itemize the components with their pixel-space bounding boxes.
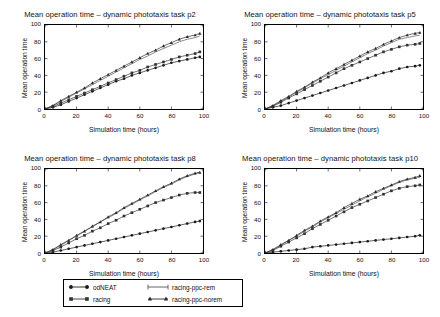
- chart-panel-p10: Mean operation time – dynamic phototaxis…: [220, 146, 440, 296]
- x-tick-label: 100: [414, 112, 434, 119]
- x-tick-label: 60: [130, 256, 150, 263]
- chart-panel-p5: Mean operation time – dynamic phototaxis…: [220, 2, 440, 152]
- legend-column-right: racing-ppc-rem racing-ppc-norem: [145, 280, 242, 306]
- y-tick-label: 40: [239, 216, 261, 223]
- y-tick-label: 60: [19, 55, 41, 62]
- x-tick-label: 80: [162, 112, 182, 119]
- x-tick-label: 0: [254, 112, 274, 119]
- plot-svg-p10: [265, 169, 423, 253]
- y-tick-label: 80: [19, 38, 41, 45]
- legend-item-racing-ppc-norem: racing-ppc-norem: [147, 293, 242, 305]
- legend-marker-line-only-icon: [147, 282, 169, 292]
- legend-marker-filled-square-icon: [68, 294, 90, 304]
- x-tick-label: 60: [350, 112, 370, 119]
- x-tick-label: 40: [318, 256, 338, 263]
- x-tick-label: 80: [382, 256, 402, 263]
- y-tick-label: 0: [19, 250, 41, 257]
- y-axis-label-wrap-p10: Mean operation time: [226, 168, 240, 254]
- x-tick-label: 100: [194, 112, 214, 119]
- y-tick-label: 80: [239, 38, 261, 45]
- x-tick-label: 60: [350, 256, 370, 263]
- plot-area-p8: [44, 168, 204, 254]
- y-tick-label: 80: [239, 182, 261, 189]
- chart-panel-p2: Mean operation time – dynamic phototaxis…: [0, 2, 220, 152]
- x-axis-label-p2: Simulation time (hours): [44, 126, 204, 133]
- x-tick-label: 20: [286, 112, 306, 119]
- y-axis-label-wrap-p5: Mean operation time: [226, 24, 240, 110]
- plot-area-p5: [264, 24, 424, 110]
- y-axis-label-wrap-p2: Mean operation time: [6, 24, 20, 110]
- figure-legend: odNEAT racing racing-ppc-rem: [63, 279, 243, 307]
- y-tick-label: 0: [19, 106, 41, 113]
- y-tick-label: 20: [19, 233, 41, 240]
- chart-title-p10: Mean operation time – dynamic phototaxis…: [220, 154, 440, 163]
- x-tick-label: 100: [414, 256, 434, 263]
- y-tick-label: 20: [239, 89, 261, 96]
- y-tick-label: 100: [19, 164, 41, 171]
- x-tick-label: 60: [130, 112, 150, 119]
- y-tick-label: 40: [239, 72, 261, 79]
- y-tick-label: 60: [19, 199, 41, 206]
- y-tick-label: 20: [19, 89, 41, 96]
- plot-svg-p2: [45, 25, 203, 109]
- x-tick-label: 20: [286, 256, 306, 263]
- y-axis-label-wrap-p8: Mean operation time: [6, 168, 20, 254]
- x-tick-label: 20: [66, 256, 86, 263]
- y-tick-label: 40: [19, 216, 41, 223]
- chart-title-p5: Mean operation time – dynamic phototaxis…: [220, 10, 440, 19]
- y-tick-label: 0: [239, 250, 261, 257]
- x-tick-label: 100: [194, 256, 214, 263]
- chart-title-p2: Mean operation time – dynamic phototaxis…: [0, 10, 220, 19]
- legend-column-left: odNEAT racing: [64, 280, 145, 306]
- plot-area-p10: [264, 168, 424, 254]
- y-tick-label: 100: [239, 20, 261, 27]
- legend-label-racing-ppc-norem: racing-ppc-norem: [169, 296, 222, 303]
- legend-marker-filled-triangle-icon: [147, 294, 169, 304]
- legend-item-odneat: odNEAT: [68, 281, 145, 293]
- y-tick-label: 20: [239, 233, 261, 240]
- x-axis-label-p10: Simulation time (hours): [264, 270, 424, 277]
- legend-label-racing: racing: [90, 296, 110, 303]
- legend-label-racing-ppc-rem: racing-ppc-rem: [169, 284, 215, 291]
- y-tick-label: 0: [239, 106, 261, 113]
- legend-marker-filled-circle-icon: [68, 282, 90, 292]
- legend-item-racing: racing: [68, 293, 145, 305]
- legend-label-odneat: odNEAT: [90, 284, 117, 291]
- legend-item-racing-ppc-rem: racing-ppc-rem: [147, 281, 242, 293]
- figure-multi-panel-line-charts: Mean operation time – dynamic phototaxis…: [0, 0, 440, 317]
- plot-svg-p5: [265, 25, 423, 109]
- x-axis-label-p5: Simulation time (hours): [264, 126, 424, 133]
- x-tick-label: 80: [382, 112, 402, 119]
- chart-panel-p8: Mean operation time – dynamic phototaxis…: [0, 146, 220, 296]
- x-tick-label: 80: [162, 256, 182, 263]
- x-tick-label: 0: [254, 256, 274, 263]
- plot-svg-p8: [45, 169, 203, 253]
- x-tick-label: 20: [66, 112, 86, 119]
- y-tick-label: 60: [239, 55, 261, 62]
- chart-title-p8: Mean operation time – dynamic phototaxis…: [0, 154, 220, 163]
- x-tick-label: 40: [98, 256, 118, 263]
- plot-area-p2: [44, 24, 204, 110]
- x-axis-label-p8: Simulation time (hours): [44, 270, 204, 277]
- x-tick-label: 40: [98, 112, 118, 119]
- x-tick-label: 0: [34, 112, 54, 119]
- y-tick-label: 100: [19, 20, 41, 27]
- y-tick-label: 100: [239, 164, 261, 171]
- y-tick-label: 60: [239, 199, 261, 206]
- x-tick-label: 0: [34, 256, 54, 263]
- y-tick-label: 80: [19, 182, 41, 189]
- y-tick-label: 40: [19, 72, 41, 79]
- x-tick-label: 40: [318, 112, 338, 119]
